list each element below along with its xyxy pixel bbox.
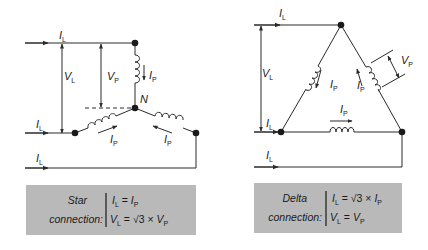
delta-wire — [281, 89, 306, 132]
delta-wire — [378, 89, 402, 132]
star-coil-left-icon — [88, 114, 116, 128]
star-box-title-1: Star — [68, 194, 88, 206]
delta-node-top — [338, 22, 345, 29]
delta-label-vl: VL — [262, 67, 273, 81]
star-label-il-bottom: IL — [36, 152, 43, 166]
three-phase-diagram: IL IL IL VL VP IP N IP IP Star connectio… — [0, 0, 428, 250]
star-label-il-top: IL — [59, 29, 66, 43]
delta-box-title-1: Delta — [282, 192, 307, 204]
star-box-title-2: connection: — [49, 213, 103, 225]
star-formula-box: Star connection: IL = IP VL = √3 × VP — [26, 185, 196, 235]
star-label-il-mid: IL — [36, 118, 43, 132]
delta-label-ip-left: IP — [330, 78, 338, 92]
delta-label-il-top: IL — [279, 7, 286, 21]
delta-connection-diagram — [254, 22, 405, 167]
delta-label-vp: VP — [401, 54, 413, 68]
delta-node-right — [399, 129, 406, 136]
star-coil-top-icon — [135, 55, 140, 83]
delta-vp-tick-top — [371, 50, 393, 63]
delta-coil-bottom-icon — [330, 128, 354, 133]
delta-box-title-2: connection: — [268, 211, 322, 223]
delta-wire — [341, 25, 366, 67]
star-label-ip-left: IP — [110, 133, 118, 147]
star-phase-current-arrow-left — [98, 126, 117, 133]
delta-equation-1: IL = √3 × IP — [332, 192, 382, 206]
delta-wire — [318, 25, 341, 66]
delta-label-il-bottom: IL — [266, 149, 273, 163]
star-coil-right-icon — [155, 112, 183, 120]
star-label-vp: VP — [107, 70, 119, 84]
star-connection-diagram — [25, 40, 199, 168]
star-label-ip-top: IP — [149, 69, 157, 83]
delta-label-il-mid: IL — [266, 117, 273, 131]
star-phase-current-arrow-right — [153, 126, 172, 133]
delta-formula-box: Delta connection: IL = √3 × IP VL = VP — [254, 183, 402, 233]
delta-node-left — [278, 129, 285, 136]
delta-equation-2: VL = VP — [330, 211, 365, 225]
delta-coil-right-icon — [366, 67, 381, 91]
star-label-neutral: N — [140, 93, 148, 105]
star-label-ip-right: IP — [164, 133, 172, 147]
delta-label-ip-bottom: IP — [340, 103, 348, 117]
star-neutral-node — [132, 105, 139, 112]
star-node-right — [193, 130, 200, 137]
delta-vp-tick-bottom — [382, 74, 405, 87]
star-node-top — [132, 40, 139, 47]
star-label-vl: VL — [64, 70, 75, 84]
delta-phase-voltage-arrow — [388, 56, 399, 78]
star-node-left — [72, 130, 79, 137]
